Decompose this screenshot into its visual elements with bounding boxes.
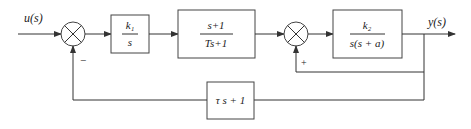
block-diagram: u(s) − k₁ s s+1 Ts+1 + k₂ s(s + a) [0,0,471,129]
block2-den: Ts+1 [205,37,227,49]
summing-junction-2 [284,22,308,46]
block-integrator: k₁ s [111,15,149,53]
input-label: u(s) [24,11,43,25]
block3-num: k₂ [363,19,372,31]
block3-den: s(s + a) [350,37,385,50]
output-label: y(s) [427,15,446,29]
block1-num: k₁ [126,19,135,31]
block-feedback: τ s + 1 [207,82,254,119]
block1-den: s [128,36,132,48]
sum2-sign: + [301,57,307,68]
block-lead-lag: s+1 Ts+1 [178,10,255,58]
summing-junction-1 [61,22,85,46]
sum1-sign: − [80,54,86,66]
block2-num: s+1 [207,19,224,31]
block-plant: k₂ s(s + a) [333,10,402,58]
feedback-expr: τ s + 1 [216,94,245,106]
